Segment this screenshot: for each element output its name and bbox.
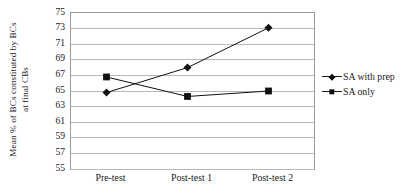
legend-entry: SA with prep [322,69,418,84]
y-axis-tick-label: 57 [55,147,65,157]
series-sa-only [103,73,272,99]
series-sa-with-prep [103,23,273,96]
y-axis-tick-label: 65 [55,85,65,95]
y-axis-title-line1: Mean % of BCs constituted by BCs [8,22,18,156]
series-layer [71,13,314,169]
legend-label: SA only [343,86,375,97]
y-axis-tick-label: 59 [55,131,65,141]
y-axis-title-line2: at final CBs [19,22,31,156]
x-axis-tick-labels: Pre-testPost-test 1Post-test 2 [70,172,315,190]
y-axis-tick-label: 75 [55,7,65,17]
y-axis-title: Mean % of BCs constituted by BCs at fina… [0,0,38,178]
data-point-diamond [265,23,273,31]
x-axis-tick-label: Post-test 2 [252,172,293,184]
y-axis-tick-label: 69 [55,53,65,63]
chart-legend: SA with prepSA only [322,69,418,99]
legend-marker [329,89,334,94]
data-point-square [265,87,272,94]
data-point-diamond [184,63,192,71]
y-axis-tick-label: 63 [55,100,65,110]
y-axis-tick-label: 55 [55,163,65,173]
legend-square-icon [322,86,342,98]
data-point-diamond [103,88,111,96]
plot-area [70,12,315,170]
y-axis-tick-label: 73 [55,22,65,32]
x-axis-tick-label: Post-test 1 [171,172,212,184]
x-axis-tick-label: Pre-test [96,172,126,184]
y-axis-tick-labels: 7573716967656361595755 [38,0,68,178]
legend-marker [329,73,335,79]
data-point-square [184,93,191,100]
line-chart-figure: Mean % of BCs constituted by BCs at fina… [0,0,418,196]
y-axis-tick-label: 67 [55,69,65,79]
data-point-square [103,73,110,80]
gridline [71,169,314,170]
legend-label: SA with prep [343,71,395,82]
legend-diamond-icon [322,71,342,83]
y-axis-tick-label: 71 [55,38,65,48]
y-axis-tick-label: 61 [55,116,65,126]
legend-entry: SA only [322,84,418,99]
